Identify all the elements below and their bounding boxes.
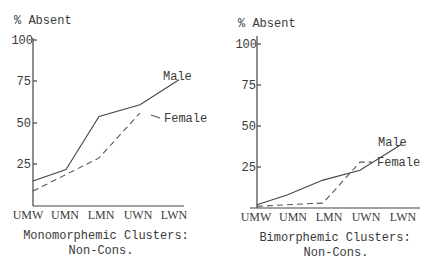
x-tick-label: UWN: [124, 208, 153, 222]
y-tick-label: 100: [235, 38, 257, 52]
chart-bimorphemic: % Absent 25 50 75 100 UMW UMN LMN UWN LW…: [235, 17, 420, 260]
x-tick-label: LMN: [316, 210, 343, 224]
series-female-line: [33, 113, 140, 191]
x-tick-label: UMW: [241, 210, 272, 224]
series-male-line: [257, 144, 402, 205]
y-tick-label: 75: [17, 75, 31, 89]
legend-female: Female: [377, 156, 420, 170]
x-tick-label: LMN: [88, 208, 115, 222]
x-tick-label: UMN: [279, 210, 307, 224]
series-male-line: [33, 80, 179, 181]
x-tick-label: LWN: [161, 208, 188, 222]
chart-caption-line2: Non-Cons.: [69, 244, 134, 258]
x-tick-label: UMW: [13, 208, 44, 222]
x-tick-label: UMN: [51, 208, 79, 222]
legend-female: Female: [164, 112, 207, 126]
x-tick-label: UWN: [352, 210, 381, 224]
y-tick-label: 50: [242, 120, 256, 134]
y-axis-label: % Absent: [238, 17, 296, 31]
x-tick-label: LWN: [390, 210, 417, 224]
legend-female-pointer: [151, 115, 160, 118]
y-axis-label: % Absent: [14, 14, 72, 28]
charts-canvas: % Absent 25 50 75 100 UMW UMN LMN UWN LW…: [0, 0, 434, 271]
y-tick-label: 50: [17, 117, 31, 131]
chart-caption-line1: Bimorphemic Clusters:: [259, 231, 410, 245]
chart-caption-line1: Monomorphemic Clusters:: [23, 229, 189, 243]
chart-caption-line2: Non-Cons.: [304, 246, 369, 260]
y-tick-label: 75: [242, 79, 256, 93]
legend-male: Male: [163, 70, 192, 84]
y-tick-label: 100: [11, 34, 33, 48]
legend-male: Male: [378, 136, 407, 150]
y-tick-label: 25: [17, 158, 31, 172]
y-tick-label: 25: [242, 161, 256, 175]
series-female-line: [257, 162, 372, 206]
chart-monomorphemic: % Absent 25 50 75 100 UMW UMN LMN UWN LW…: [11, 14, 207, 258]
